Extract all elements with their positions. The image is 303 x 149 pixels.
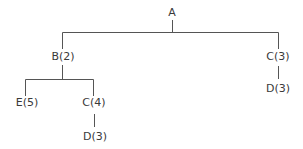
- node-b: B(2): [51, 51, 74, 63]
- node-d3-left: D(3): [83, 131, 107, 143]
- node-c4: C(4): [82, 97, 105, 109]
- node-e: E(5): [16, 97, 39, 109]
- node-a: A: [168, 7, 176, 19]
- node-c3: C(3): [266, 51, 289, 63]
- node-d3-right: D(3): [266, 83, 290, 95]
- tree-edges: [0, 0, 303, 149]
